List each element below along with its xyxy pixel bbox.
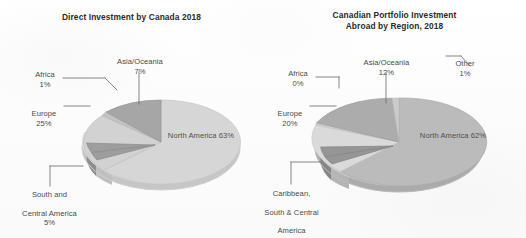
label-south-central-america-left-pct: 5% [2, 218, 97, 227]
label-africa-right-name: Africa [288, 69, 308, 78]
label-south-central-america-left: South and Central America 5% [2, 181, 97, 237]
label-north-america-left-name: North America [168, 131, 217, 140]
label-caribbean-right-line3: America [277, 226, 305, 235]
label-other-right-name: Other [455, 59, 474, 68]
label-africa-right: Africa 0% [282, 60, 314, 97]
label-north-america-left-pct: 63% [219, 131, 234, 140]
label-caribbean-south-central-right: Caribbean, South & Central America 5% [251, 180, 332, 238]
label-europe-left: Europe 25% [26, 100, 62, 137]
label-south-central-america-left-line1: South and [32, 190, 67, 199]
label-europe-right-name: Europe [278, 109, 303, 118]
label-caribbean-right-line2: South & Central [264, 208, 318, 217]
label-europe-right: Europe 20% [272, 100, 308, 137]
label-asia-oceania-left-pct: 7% [112, 67, 168, 76]
label-africa-left-name: Africa [35, 70, 55, 79]
label-north-america-left: North America 63% [161, 131, 241, 141]
label-other-right: Other 1% [449, 50, 481, 87]
label-africa-left-pct: 1% [29, 80, 61, 89]
label-asia-oceania-left-name: Asia/Oceania [117, 57, 163, 66]
label-caribbean-right-pct: 5% [251, 236, 332, 238]
label-europe-left-name: Europe [32, 109, 57, 118]
label-north-america-right-name: North America [420, 131, 469, 140]
label-caribbean-right-line1: Caribbean, [273, 189, 311, 198]
label-north-america-right-pct: 62% [471, 131, 486, 140]
label-north-america-right: North America 62% [413, 131, 493, 141]
chart-direct-investment-by-canada: Direct Investment by Canada 2018 [0, 0, 263, 238]
label-asia-oceania-right: Asia/Oceania 12% [358, 49, 415, 86]
label-asia-oceania-right-pct: 12% [358, 68, 415, 77]
label-africa-right-pct: 0% [282, 79, 314, 88]
label-europe-right-pct: 20% [272, 119, 308, 128]
label-africa-left: Africa 1% [29, 61, 61, 98]
label-south-central-america-left-line2: Central America [22, 209, 77, 218]
label-asia-oceania-left: Asia/Oceania 7% [112, 48, 168, 85]
label-other-right-pct: 1% [449, 69, 481, 78]
label-europe-left-pct: 25% [26, 119, 62, 128]
chart-canadian-portfolio-investment: Canadian Portfolio InvestmentAbroad by R… [263, 0, 526, 238]
label-asia-oceania-right-name: Asia/Oceania [364, 58, 410, 67]
pie-charts-figure: Direct Investment by Canada 2018 [0, 0, 526, 238]
